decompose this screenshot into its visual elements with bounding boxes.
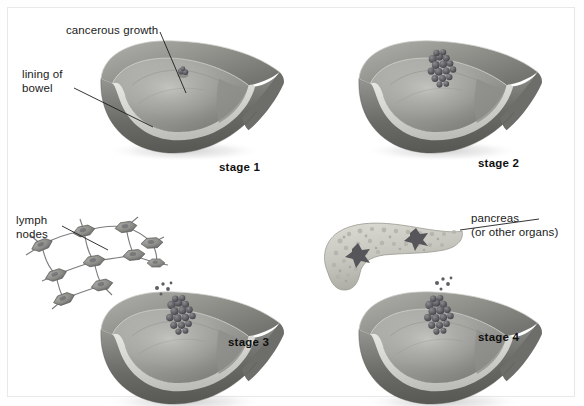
stage-2-illustration (292, 0, 584, 203)
figure-canvas: cancerous growth lining of bowel stage 1… (0, 0, 584, 406)
caption-stage-4: stage 4 (478, 331, 519, 343)
panel-stage-2: stage 2 (292, 0, 584, 203)
label-pancreas: pancreas (or other organs) (471, 212, 558, 239)
caption-stage-3: stage 3 (228, 336, 269, 348)
shed-cells-stage-4 (435, 277, 452, 291)
label-cancerous-growth: cancerous growth (66, 24, 158, 38)
caption-stage-1: stage 1 (219, 161, 260, 173)
label-lining-of-bowel: lining of bowel (22, 68, 63, 95)
panel-stage-3: lymph nodes stage 3 (0, 203, 292, 406)
label-lymph-nodes: lymph nodes (16, 214, 48, 241)
caption-stage-2: stage 2 (478, 157, 519, 169)
panel-stage-1: cancerous growth lining of bowel stage 1 (0, 0, 292, 203)
panel-stage-4: pancreas (or other organs) stage 4 (292, 203, 584, 406)
